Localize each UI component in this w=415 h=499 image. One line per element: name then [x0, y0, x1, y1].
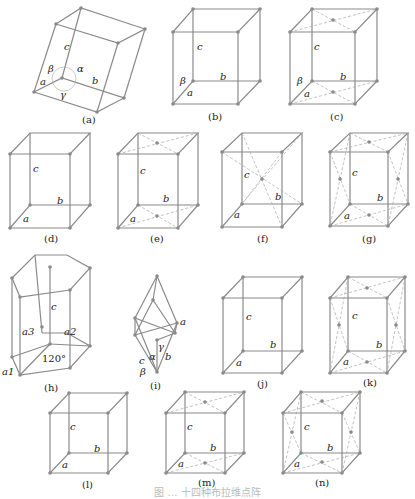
panel-i-rhombohedral: a c α γ b β (i)	[133, 274, 186, 391]
label-a2: a2	[64, 326, 76, 337]
label-alpha: α	[77, 63, 84, 74]
figure-caption: 图 … 十四种布拉维点阵	[0, 484, 415, 499]
label-gamma: γ	[60, 89, 66, 100]
label-beta: β	[179, 75, 186, 86]
label-c: c	[140, 165, 146, 176]
label-c: c	[187, 421, 193, 432]
panel-caption: (i)	[150, 380, 161, 391]
panel-h-hexagonal: c a3 a2 120° a1 (h)	[2, 255, 92, 393]
label-c: c	[64, 41, 70, 52]
panel-n-face-centered-cubic: c a b (n)	[281, 390, 362, 488]
panel-d-orthorhombic: c a b (d)	[8, 133, 92, 244]
label-gamma: γ	[158, 341, 164, 352]
label-c: c	[314, 41, 320, 52]
label-beta: β	[139, 366, 146, 377]
label-a: a	[304, 88, 310, 99]
label-b: b	[275, 191, 281, 202]
panel-caption: (c)	[330, 111, 344, 122]
label-c: c	[352, 310, 358, 321]
label-b: b	[340, 71, 346, 82]
panel-e-base-centered-orthorhombic: c a b (e)	[116, 133, 200, 244]
label-a1: a1	[2, 366, 14, 377]
label-a: a	[343, 356, 349, 367]
label-a: a	[62, 459, 68, 470]
label-b: b	[376, 339, 382, 350]
panel-caption: (b)	[208, 111, 222, 122]
panel-caption: (g)	[362, 233, 376, 244]
label-b: b	[210, 442, 216, 453]
label-alpha: α	[149, 351, 156, 362]
panel-caption: (j)	[257, 378, 268, 389]
panel-m-body-centered-cubic: c a b (m)	[164, 390, 246, 488]
label-a: a	[187, 87, 193, 98]
label-c: c	[139, 355, 145, 366]
label-c: c	[244, 169, 250, 180]
label-c: c	[197, 41, 203, 52]
label-b: b	[377, 192, 383, 203]
label-a: a	[178, 458, 184, 469]
label-c: c	[33, 163, 39, 174]
label-a: a	[234, 209, 240, 220]
label-a: a	[236, 357, 242, 368]
label-b: b	[165, 351, 171, 362]
panel-b-monoclinic: c β a b (b)	[171, 7, 262, 122]
label-b: b	[327, 442, 333, 453]
panel-j-tetragonal: c a b (j)	[221, 275, 304, 389]
label-a: a	[23, 213, 29, 224]
panel-caption: (d)	[44, 233, 58, 244]
label-a: a	[294, 458, 300, 469]
label-beta: β	[296, 75, 303, 86]
label-a: a	[40, 76, 46, 87]
label-c: c	[70, 421, 76, 432]
label-a: a	[180, 316, 186, 327]
label-b: b	[94, 443, 100, 454]
label-a3: a3	[22, 326, 34, 337]
label-120deg: 120°	[42, 353, 66, 364]
label-b: b	[163, 193, 169, 204]
panel-g-face-centered-orthorhombic: c a b (g)	[328, 133, 410, 244]
label-beta: β	[47, 63, 54, 74]
label-a: a	[344, 210, 350, 221]
panel-k-body-centered-tetragonal: c a b (k)	[328, 275, 407, 388]
panel-caption: (k)	[363, 377, 377, 388]
panel-caption: (e)	[150, 233, 164, 244]
panel-caption: (h)	[44, 382, 58, 393]
label-b: b	[57, 195, 63, 206]
panel-c-base-centered-monoclinic: c β a b (c)	[288, 7, 379, 122]
label-c: c	[246, 311, 252, 322]
panel-caption: (f)	[257, 233, 269, 244]
label-c: c	[51, 301, 57, 312]
panel-f-body-centered-orthorhombic: c a b (f)	[220, 133, 304, 244]
label-c: c	[352, 167, 358, 178]
panel-caption: (a)	[82, 114, 96, 125]
panel-a-triclinic: c β α a b γ (a)	[32, 6, 147, 125]
label-a: a	[130, 213, 136, 224]
label-b: b	[92, 75, 98, 86]
panel-l-cubic: c a b (l)	[48, 391, 129, 490]
label-b: b	[220, 71, 226, 82]
label-c: c	[304, 421, 310, 432]
label-b: b	[270, 339, 276, 350]
